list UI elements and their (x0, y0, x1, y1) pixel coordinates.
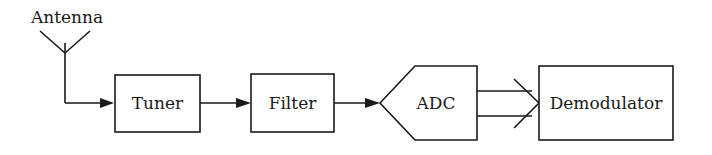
arrow-antenna-to-tuner (65, 98, 114, 108)
tuner-block: Tuner (115, 75, 200, 132)
signal-chain-diagram: Antenna Tuner Filter ADC (0, 0, 712, 155)
tuner-label: Tuner (132, 93, 184, 113)
adc-label: ADC (416, 93, 456, 113)
adc-block: ADC (380, 66, 477, 140)
arrow-filter-to-adc (334, 98, 380, 108)
arrow-tuner-to-filter (200, 98, 251, 108)
bus-arrow-adc-to-demodulator (477, 79, 539, 128)
filter-block: Filter (251, 74, 334, 132)
filter-label: Filter (269, 93, 318, 113)
antenna-label: Antenna (30, 7, 103, 27)
demodulator-block: Demodulator (539, 66, 673, 140)
demodulator-label: Demodulator (550, 93, 664, 113)
antenna-icon (40, 31, 90, 103)
